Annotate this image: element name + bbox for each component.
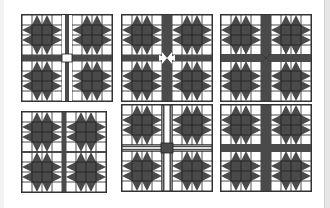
quilt-panel-3 [220, 14, 312, 102]
quilt-layout-4-graphic [21, 111, 107, 193]
page-left-edge [0, 0, 4, 208]
quilt-panel-1 [21, 14, 113, 102]
quilt-layout-3-graphic [220, 14, 312, 102]
quilt-panel-2 [121, 14, 213, 102]
quilt-panel-6 [220, 104, 312, 192]
quilt-panel-4 [21, 111, 107, 193]
scrollbar[interactable] [324, 0, 330, 208]
quilt-layout-5-graphic [121, 104, 213, 192]
quilt-panel-5 [121, 104, 213, 192]
quilt-layout-6-graphic [220, 104, 312, 192]
quilt-layout-2-graphic [121, 14, 213, 102]
quilt-layout-1-graphic [21, 14, 113, 102]
